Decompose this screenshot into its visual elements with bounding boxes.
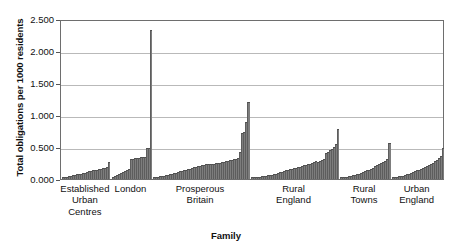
x-category-label: Urban England bbox=[369, 183, 452, 206]
y-tick-label: 2.500 bbox=[20, 15, 54, 25]
y-tick-mark bbox=[56, 116, 60, 117]
x-category-label: Prosperous Britain bbox=[152, 183, 248, 206]
y-tick-label: 0.500 bbox=[20, 143, 54, 153]
y-tick-mark bbox=[56, 84, 60, 85]
y-tick-label: 2.000 bbox=[20, 47, 54, 57]
y-tick-mark bbox=[56, 52, 60, 53]
bar bbox=[247, 102, 249, 179]
y-tick-label: 1.000 bbox=[20, 111, 54, 121]
bar-series bbox=[61, 21, 443, 179]
bar-chart-figure: Total obligations per 1000 residents 0.0… bbox=[0, 0, 452, 251]
x-axis-category-labels: Established Urban CentresLondonProsperou… bbox=[60, 183, 444, 231]
y-tick-mark bbox=[56, 20, 60, 21]
bar bbox=[388, 143, 390, 179]
bar bbox=[442, 148, 444, 179]
y-tick-label: 1.500 bbox=[20, 79, 54, 89]
bar bbox=[337, 129, 339, 179]
y-tick-mark bbox=[56, 180, 60, 181]
x-axis-title: Family bbox=[0, 230, 452, 241]
plot-area bbox=[60, 20, 444, 180]
bar bbox=[108, 162, 110, 179]
bar bbox=[150, 30, 152, 179]
y-tick-mark bbox=[56, 148, 60, 149]
